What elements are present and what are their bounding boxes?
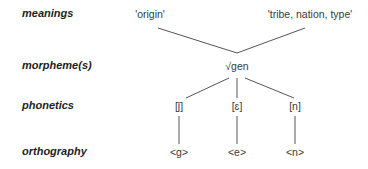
grapheme-3: <n> xyxy=(286,146,304,158)
line-morpheme-to-phone-3 xyxy=(245,78,294,98)
morpheme-root: √gen xyxy=(225,60,248,72)
row-label-morphemes: morpheme(s) xyxy=(22,59,92,71)
line-origin-to-morpheme xyxy=(158,28,237,53)
row-label-orthography: orthography xyxy=(22,145,87,157)
phone-2: [ɛ] xyxy=(232,100,243,112)
row-label-meanings: meanings xyxy=(22,7,73,19)
phone-3: [n] xyxy=(289,100,301,112)
phone-1: [ǰ] xyxy=(175,100,183,112)
row-label-phonetics: phonetics xyxy=(22,99,74,111)
connector-lines xyxy=(0,0,368,169)
line-tribe-to-morpheme xyxy=(237,28,305,53)
line-morpheme-to-phone-1 xyxy=(186,78,229,98)
meaning-tribe-nation-type: 'tribe, nation, type' xyxy=(268,8,353,20)
meaning-origin: 'origin' xyxy=(135,8,165,20)
grapheme-2: <e> xyxy=(228,146,246,158)
grapheme-1: <g> xyxy=(170,146,188,158)
